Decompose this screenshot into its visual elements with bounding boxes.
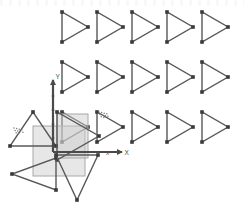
hatch-mark-row3-c2-dot <box>99 114 101 116</box>
array-triangle-r2-c1-vertex-0[interactable] <box>60 60 64 64</box>
array-triangle-r3-c1-vertex-0[interactable] <box>60 110 64 114</box>
array-triangle-r2-c1-vertex-2[interactable] <box>86 75 90 79</box>
hatch-mark-left-dot <box>18 128 20 130</box>
array-triangle-r3-c2-vertex-1[interactable] <box>95 140 99 144</box>
hatch-mark-row3-c2-dot <box>98 111 100 113</box>
array-triangle-r2-c5-outline <box>202 62 228 92</box>
drawing-canvas[interactable]: YXx <box>0 0 244 205</box>
array-triangle-r1-c3-vertex-0[interactable] <box>130 10 134 14</box>
hatch-mark-row3-c2-dot <box>101 112 103 114</box>
array-triangle-r1-c3-vertex-2[interactable] <box>156 25 160 29</box>
array-triangle-r3-c5[interactable] <box>200 110 230 144</box>
array-triangle-r1-c3-vertex-1[interactable] <box>130 40 134 44</box>
array-triangle-r2-c4-outline <box>167 62 193 92</box>
array-triangle-r2-c2-vertex-0[interactable] <box>95 60 99 64</box>
array-triangle-r1-c5-vertex-1[interactable] <box>200 40 204 44</box>
canvas-artwork: YXx <box>0 0 244 205</box>
array-triangle-r2-c2[interactable] <box>95 60 125 94</box>
triangle-right-origin-vertex-0[interactable] <box>55 110 59 114</box>
array-triangle-r2-c3[interactable] <box>130 60 160 94</box>
array-triangle-r1-c1[interactable] <box>60 10 90 44</box>
array-triangle-r3-c3[interactable] <box>130 110 160 144</box>
hatch-mark-row3-c2-dot <box>105 115 107 117</box>
triangle-up-vertex-2[interactable] <box>31 110 35 114</box>
triangle-down-vertex-0[interactable] <box>54 153 58 157</box>
array-triangle-r3-c3-vertex-0[interactable] <box>130 110 134 114</box>
array-triangle-r1-c4-vertex-0[interactable] <box>165 10 169 14</box>
array-triangle-r3-c5-vertex-2[interactable] <box>226 125 230 129</box>
array-triangle-r2-c3-vertex-1[interactable] <box>130 90 134 94</box>
array-triangle-r3-c3-outline <box>132 112 158 142</box>
x-axis-label: X <box>125 149 130 156</box>
array-triangle-r2-c4-vertex-1[interactable] <box>165 90 169 94</box>
array-triangle-r1-c2-vertex-1[interactable] <box>95 40 99 44</box>
array-triangle-r2-c1-vertex-1[interactable] <box>60 90 64 94</box>
triangle-right-origin-vertex-2[interactable] <box>97 134 101 138</box>
array-triangle-r2-c3-vertex-0[interactable] <box>130 60 134 64</box>
array-triangle-r2-c5[interactable] <box>200 60 230 94</box>
triangle-down-vertex-2[interactable] <box>75 198 79 202</box>
hatch-mark-row3-c2-dot <box>102 114 104 116</box>
array-triangle-r2-c5-vertex-0[interactable] <box>200 60 204 64</box>
triangle-left-vertex-1[interactable] <box>54 188 58 192</box>
array-triangle-r1-c4-vertex-2[interactable] <box>191 25 195 29</box>
array-triangle-r2-c3-outline <box>132 62 158 92</box>
array-triangle-r2-c4-vertex-0[interactable] <box>165 60 169 64</box>
array-triangle-r1-c4-outline <box>167 12 193 42</box>
array-triangle-r2-c4-vertex-2[interactable] <box>191 75 195 79</box>
array-triangle-r1-c1-vertex-2[interactable] <box>86 25 90 29</box>
hatch-mark-row3-c2-dot <box>103 117 105 119</box>
array-triangle-r1-c3[interactable] <box>130 10 160 44</box>
array-triangle-r1-c4[interactable] <box>165 10 195 44</box>
array-triangle-r3-c2[interactable] <box>95 110 125 144</box>
array-triangle-r2-c5-vertex-2[interactable] <box>226 75 230 79</box>
array-triangle-r3-c5-vertex-1[interactable] <box>200 140 204 144</box>
hatch-mark-left-dot <box>14 130 16 132</box>
array-triangle-r3-c3-vertex-2[interactable] <box>156 125 160 129</box>
array-triangle-r1-c1-vertex-0[interactable] <box>60 10 64 14</box>
triangle-up-vertex-0[interactable] <box>8 144 12 148</box>
hatch-mark-left-dot <box>13 127 15 129</box>
array-triangle-r3-c4-vertex-2[interactable] <box>191 125 195 129</box>
array-triangle-r1-c2-vertex-0[interactable] <box>95 10 99 14</box>
array-triangle-r1-c2[interactable] <box>95 10 125 44</box>
array-triangle-r3-c3-vertex-1[interactable] <box>130 140 134 144</box>
array-triangle-r2-c1[interactable] <box>60 60 90 94</box>
array-triangle-r1-c2-outline <box>97 12 123 42</box>
hatch-mark-left-dot <box>17 130 19 132</box>
triangle-down-vertex-1[interactable] <box>96 153 100 157</box>
hatch-mark-left-dot <box>15 132 17 134</box>
array-triangle-r1-c5-vertex-0[interactable] <box>200 10 204 14</box>
array-triangle-r2-c3-vertex-2[interactable] <box>156 75 160 79</box>
array-triangle-r3-c4-vertex-1[interactable] <box>165 140 169 144</box>
array-triangle-r1-c5-outline <box>202 12 228 42</box>
transform-overlay-layer[interactable]: YXx <box>8 73 129 202</box>
array-triangle-r3-c5-vertex-0[interactable] <box>200 110 204 114</box>
array-triangle-r3-c5-outline <box>202 112 228 142</box>
array-triangle-r3-c2-vertex-2[interactable] <box>121 125 125 129</box>
array-triangle-r3-c4-vertex-0[interactable] <box>165 110 169 114</box>
array-triangle-r1-c3-outline <box>132 12 158 42</box>
hatch-mark-row3-c2-dot <box>106 113 108 115</box>
hatch-mark-left-dot <box>21 129 23 131</box>
array-triangle-r2-c2-vertex-1[interactable] <box>95 90 99 94</box>
array-triangle-r1-c1-vertex-1[interactable] <box>60 40 64 44</box>
hatch-mark-left-dot <box>20 131 22 133</box>
array-triangle-r1-c2-vertex-2[interactable] <box>121 25 125 29</box>
array-triangle-r2-c4[interactable] <box>165 60 195 94</box>
array-triangle-r1-c5[interactable] <box>200 10 230 44</box>
hatch-mark-row3-c2-dot <box>100 116 102 118</box>
hatch-mark-row3-c2-dot <box>103 112 105 114</box>
array-triangle-r2-c2-vertex-2[interactable] <box>121 75 125 79</box>
array-triangle-r1-c5-vertex-2[interactable] <box>226 25 230 29</box>
array-triangle-r3-c4[interactable] <box>165 110 195 144</box>
triangle-left-vertex-2[interactable] <box>10 172 14 176</box>
array-triangle-r3-c4-outline <box>167 112 193 142</box>
hatch-mark-left-dot <box>16 128 18 130</box>
hatch-mark-left-dot <box>22 131 24 133</box>
array-triangle-r1-c4-vertex-1[interactable] <box>165 40 169 44</box>
hatch-mark-left-dot <box>18 133 20 135</box>
y-axis-label: Y <box>56 73 61 80</box>
array-triangle-r2-c5-vertex-1[interactable] <box>200 90 204 94</box>
array-triangle-r2-c1-outline <box>62 62 88 92</box>
